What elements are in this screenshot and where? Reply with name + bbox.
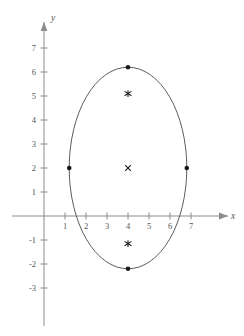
x-tick-label-2: 2 [84,221,88,231]
y-axis-label: y [50,13,56,23]
axes-group: 1 2 3 4 5 6 7 7 6 5 4 3 2 1 -1 -2 -3 [12,13,236,326]
y-tick-label-3: 3 [32,139,36,149]
x-tick-labels: 1 2 3 4 5 6 7 [63,221,193,231]
x-tick-label-3: 3 [105,221,109,231]
vertex-dot-left [67,166,72,171]
x-axis-label: x [230,211,236,221]
x-tick-label-5: 5 [147,221,151,231]
vertex-dot-bottom [126,267,131,272]
y-tick-labels: 7 6 5 4 3 2 1 -1 -2 -3 [29,43,37,293]
center-cross-marker [125,165,131,171]
coordinate-plane-plot: 1 2 3 4 5 6 7 7 6 5 4 3 2 1 -1 -2 -3 [0,0,244,336]
y-tick-label-neg3: -3 [29,283,36,293]
y-tick-label-6: 6 [32,67,36,77]
focus-asterisk-upper [125,90,132,97]
x-tick-label-4: 4 [126,221,131,231]
y-tick-label-neg2: -2 [29,259,36,269]
focus-asterisk-lower [125,240,132,247]
x-tick-label-6: 6 [168,221,172,231]
x-tick-label-7: 7 [189,221,193,231]
y-axis-arrow-icon [41,22,48,31]
y-tick-label-7: 7 [32,43,36,53]
x-axis-arrow-icon [219,213,228,220]
y-tick-label-neg1: -1 [29,235,36,245]
figure-canvas: 1 2 3 4 5 6 7 7 6 5 4 3 2 1 -1 -2 -3 [0,0,244,336]
vertex-dot-right [185,166,190,171]
x-tick-label-1: 1 [63,221,67,231]
vertex-dot-top [126,65,131,70]
y-tick-label-5: 5 [32,91,36,101]
y-tick-label-2: 2 [32,163,36,173]
y-tick-label-4: 4 [32,115,37,125]
y-tick-label-1: 1 [32,187,36,197]
